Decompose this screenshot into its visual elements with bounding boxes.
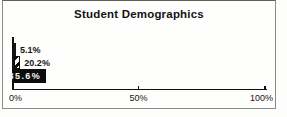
- bar-solid-black: 85.6%: [14, 69, 46, 83]
- x-tick-label-100: 100%: [250, 93, 273, 103]
- x-axis-tick-100: [264, 86, 266, 90]
- chart-title: Student Demographics: [3, 8, 275, 20]
- bar-value-label: 5.1%: [20, 45, 41, 55]
- bars-container: 5.1% 20.2% 85.6%: [14, 37, 265, 90]
- x-axis-tick-50: [138, 86, 140, 90]
- bar-value-label: 20.2%: [24, 58, 50, 68]
- bar-row-2: 20.2%: [14, 56, 46, 69]
- x-tick-label-0: 0%: [9, 93, 22, 103]
- bar-solid-gray: [14, 43, 16, 56]
- chart-frame: Student Demographics 5.1% 20.2% 85.6%: [2, 0, 276, 109]
- bar-row-1: 5.1%: [14, 43, 41, 56]
- x-axis-line: [12, 89, 267, 91]
- plot-area: 5.1% 20.2% 85.6%: [12, 37, 265, 90]
- bar-value-label: 85.6%: [9, 71, 42, 81]
- x-tick-label-50: 50%: [129, 93, 147, 103]
- chart-image: Student Demographics 5.1% 20.2% 85.6%: [0, 0, 287, 117]
- x-axis-labels: 0% 50% 100%: [12, 93, 265, 104]
- bar-diagonal-hatch: [14, 56, 20, 69]
- bar-row-3: 85.6%: [14, 69, 52, 83]
